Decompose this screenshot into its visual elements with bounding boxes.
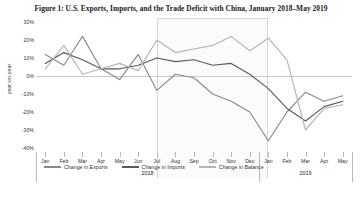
figure-title: Figure 1: U.S. Exports, Imports, and the… xyxy=(0,4,362,13)
legend-item[interactable]: Change in Balance xyxy=(199,164,264,170)
x-axis-tick-mark xyxy=(324,152,325,157)
legend-line-swatch xyxy=(44,166,61,168)
series-line-1 xyxy=(45,53,342,121)
x-axis-tick-mark xyxy=(231,152,232,157)
y-axis-tick: -30% xyxy=(10,127,34,133)
legend-item[interactable]: Change in Exports xyxy=(44,164,108,170)
x-axis-tick-mark xyxy=(175,152,176,157)
y-axis-tick-labels: 30%20%10%0%-10%-20%-30%-40% xyxy=(10,18,34,151)
x-axis-tick-mark xyxy=(287,152,288,157)
x-axis-tick-mark xyxy=(45,152,46,157)
x-axis-tick-mark xyxy=(138,152,139,157)
y-axis-tick: 30% xyxy=(10,19,34,25)
legend-line-swatch xyxy=(122,166,139,168)
year-group-label: 2019 xyxy=(286,170,326,176)
legend-item[interactable]: Change in Imports xyxy=(122,164,185,170)
x-axis: JanFebMarAprMayJunJulAugSepOctNovDecJanF… xyxy=(36,152,352,197)
x-axis-tick-mark xyxy=(101,152,102,157)
year-group-separator xyxy=(36,152,37,182)
y-axis-tick: -10% xyxy=(10,91,34,97)
plot-area-wrapper: year-on-year 30%20%10%0%-10%-20%-30%-40%… xyxy=(0,18,362,197)
y-axis-tick: 10% xyxy=(10,55,34,61)
x-axis-tick-mark xyxy=(194,152,195,157)
x-axis-tick-mark xyxy=(64,152,65,157)
series-lines xyxy=(36,22,352,148)
series-line-0 xyxy=(45,36,342,140)
x-axis-tick-mark xyxy=(82,152,83,157)
x-axis-tick-mark xyxy=(268,152,269,157)
chart-legend: Change in ExportsChange in ImportsChange… xyxy=(44,164,264,170)
y-axis-tick: 0% xyxy=(10,73,34,79)
x-axis-tick-mark xyxy=(120,152,121,157)
legend-label: Change in Imports xyxy=(142,164,185,170)
x-axis-tick-mark xyxy=(213,152,214,157)
x-axis-tick-mark xyxy=(157,152,158,157)
y-axis-tick: -40% xyxy=(10,145,34,151)
year-group-separator xyxy=(352,152,353,182)
legend-label: Change in Exports xyxy=(64,164,108,170)
y-axis-tick: 20% xyxy=(10,37,34,43)
legend-label: Change in Balance xyxy=(219,164,264,170)
x-axis-tick-mark xyxy=(343,152,344,157)
y-axis-tick: -20% xyxy=(10,109,34,115)
legend-line-swatch xyxy=(199,166,216,168)
figure-container: Figure 1: U.S. Exports, Imports, and the… xyxy=(0,0,362,197)
x-axis-tick-mark xyxy=(306,152,307,157)
plot-area xyxy=(36,22,352,148)
year-group-label: 2018 xyxy=(128,170,168,176)
x-axis-tick-mark xyxy=(250,152,251,157)
